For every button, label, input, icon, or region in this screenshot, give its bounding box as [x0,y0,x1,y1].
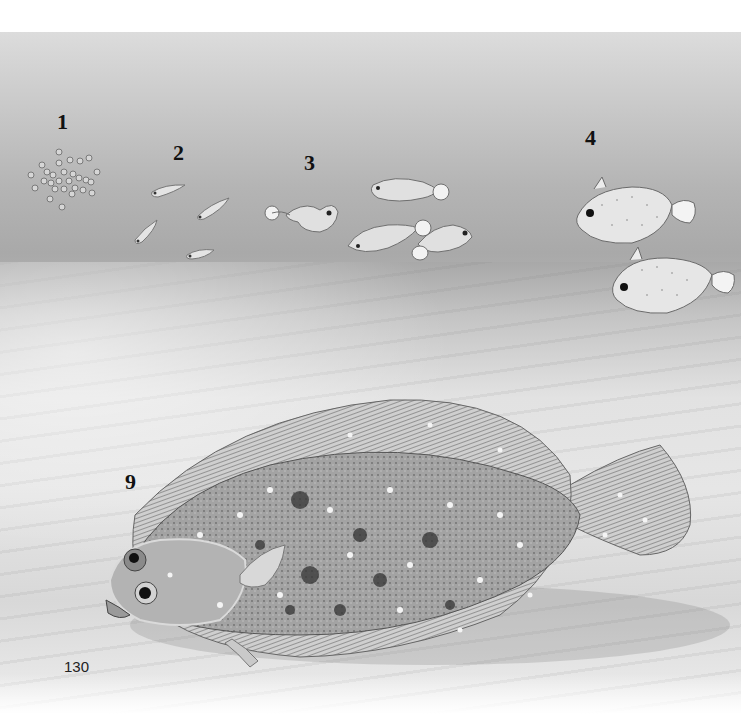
egg-cluster-icon [25,145,105,215]
sand-fade [0,674,741,714]
stage-label-2: 2 [173,142,184,164]
stage-label-4: 4 [585,127,596,149]
adult-flounder-icon [100,395,710,670]
stage-label-1: 1 [57,111,68,133]
postlarvae-group-icon [258,170,478,265]
larvae-group-icon [130,180,240,265]
page-number: 130 [64,658,89,675]
juvenile-group-icon [572,175,741,325]
book-page: 1 2 3 4 9 [0,0,741,714]
